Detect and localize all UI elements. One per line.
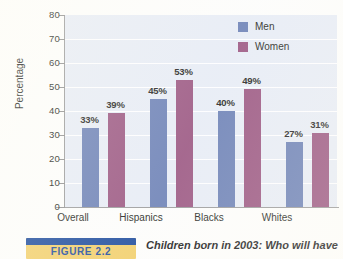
y-tick-label-70: 70	[20, 33, 60, 44]
x-axis-line	[56, 207, 339, 208]
figure-caption-text: Children born in 2003: Who will have	[146, 239, 338, 251]
y-tick-label-80: 80	[20, 9, 60, 20]
figure-badge-label: FIGURE 2.2	[26, 246, 136, 257]
legend-item-men: Men	[238, 21, 289, 32]
legend-swatch-men-icon	[238, 22, 248, 32]
legend-swatch-women-icon	[238, 42, 248, 52]
y-tick-label-20: 20	[20, 153, 60, 164]
bar-blacks-men	[218, 111, 235, 207]
gridline-60	[65, 63, 337, 64]
figure-container: 33%39% 45%53% 40%49% 27%31% 010203040506…	[0, 0, 343, 259]
figure-caption-strip: FIGURE 2.2 Children born in 2003: Who wi…	[0, 236, 343, 259]
bar-value-label-whites-men: 27%	[277, 128, 311, 139]
bar-whites-men	[286, 142, 303, 207]
y-tick-label-40: 40	[20, 105, 60, 116]
bar-hispanics-women	[176, 80, 193, 207]
figure-number-badge: FIGURE 2.2	[26, 238, 136, 259]
gridline-40	[65, 111, 337, 112]
bar-whites-women	[312, 133, 329, 207]
legend-label-men: Men	[255, 21, 274, 32]
y-tick-label-50: 50	[20, 81, 60, 92]
bar-blacks-women	[244, 89, 261, 207]
bar-overall-men	[82, 128, 99, 207]
x-tick-label-whites: Whites	[237, 212, 317, 223]
y-tick-label-0: 0	[20, 201, 60, 212]
bar-hispanics-men	[150, 99, 167, 207]
gridline-50	[65, 87, 337, 88]
bar-value-label-overall-women: 39%	[99, 99, 133, 110]
plot-area: 33%39% 45%53% 40%49% 27%31%	[65, 15, 337, 207]
y-tick-label-30: 30	[20, 129, 60, 140]
y-tick-label-60: 60	[20, 57, 60, 68]
legend-label-women: Women	[255, 41, 289, 52]
bar-value-label-hispanics-women: 53%	[167, 66, 201, 77]
bar-overall-women	[108, 113, 125, 207]
y-tick-label-10: 10	[20, 177, 60, 188]
bar-value-label-overall-men: 33%	[73, 114, 107, 125]
legend-item-women: Women	[238, 41, 289, 52]
bar-value-label-blacks-men: 40%	[209, 97, 243, 108]
y-axis-title: Percentage	[14, 29, 25, 139]
bar-value-label-hispanics-men: 45%	[141, 85, 175, 96]
bar-value-label-whites-women: 31%	[303, 119, 337, 130]
gridline-70	[65, 39, 337, 40]
bar-value-label-blacks-women: 49%	[235, 75, 269, 86]
chart-legend: Men Women	[238, 21, 289, 61]
figure-badge-bar	[26, 238, 136, 245]
